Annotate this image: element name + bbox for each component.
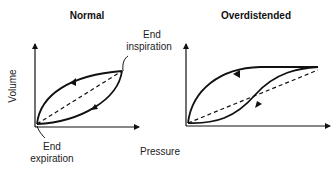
x-axis-label: Pressure	[140, 146, 180, 157]
overdistended-inflation-arrow-icon	[255, 101, 262, 108]
normal-panel: Normal End inspiration End expiration Vo…	[7, 10, 172, 164]
y-axis-label: Volume	[7, 69, 18, 103]
end-expiration-pointer	[37, 126, 45, 138]
end-inspiration-label-line2: inspiration	[126, 41, 172, 52]
overdistended-panel: Overdistended	[186, 10, 330, 126]
overdistended-compliance-line	[188, 70, 318, 123]
end-inspiration-pointer	[123, 56, 128, 71]
end-inspiration-label-line1: End	[143, 29, 161, 40]
pressure-volume-diagram: Normal End inspiration End expiration Vo…	[0, 0, 331, 172]
end-expiration-label-line2: expiration	[30, 153, 73, 164]
overdistended-title: Overdistended	[221, 10, 291, 21]
normal-title: Normal	[70, 10, 105, 21]
end-expiration-label-line1: End	[43, 141, 61, 152]
